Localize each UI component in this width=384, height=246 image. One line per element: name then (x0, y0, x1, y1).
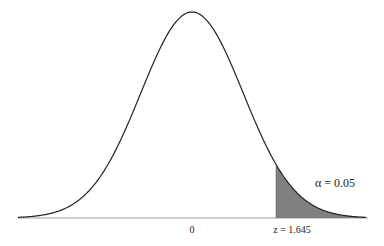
normal-distribution-chart: α = 0.05 0 z = 1.645 (0, 0, 384, 246)
tick-label-mean: 0 (190, 224, 195, 235)
tick-label-critical-z: z = 1.645 (273, 224, 311, 235)
normal-curve (18, 12, 366, 217)
alpha-label: α = 0.05 (315, 176, 355, 190)
